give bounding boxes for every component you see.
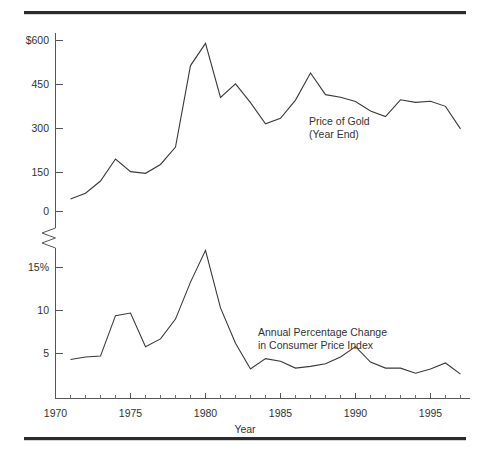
gold-ytick-label-0: 0 [43, 205, 49, 217]
gold-ytick-label-300: 300 [31, 122, 49, 134]
bottom-rule [24, 437, 466, 440]
xtick-label-1990: 1990 [344, 407, 368, 419]
gold-vs-cpi-figure: $600 450 300 150 0 Price of Gold (Year E… [0, 0, 488, 453]
xtick-label-1975: 1975 [119, 407, 143, 419]
gold-ytick-label-600: $600 [26, 34, 50, 46]
xtick-label-1985: 1985 [269, 407, 293, 419]
axis-break-zigzag [42, 228, 56, 252]
top-rule [24, 11, 466, 14]
gold-annotation-line2: (Year End) [309, 128, 359, 140]
chart-page: $600 450 300 150 0 Price of Gold (Year E… [0, 0, 488, 453]
axis-break [42, 228, 56, 252]
cpi-ytick-label-5: 5 [43, 347, 49, 359]
cpi-panel: 15% 10 5 1970 1975 1980 1985 1990 1995 A… [28, 250, 470, 435]
gold-panel: $600 450 300 150 0 Price of Gold (Year E… [26, 33, 461, 228]
cpi-ytick-label-10: 10 [37, 304, 49, 316]
gold-ytick-label-450: 450 [31, 78, 49, 90]
gold-ytick-label-150: 150 [31, 166, 49, 178]
gold-annotation-line1: Price of Gold [309, 115, 370, 127]
gold-price-series [71, 43, 461, 199]
xtick-label-1980: 1980 [194, 407, 218, 419]
cpi-change-series [71, 250, 461, 374]
xtick-label-1970: 1970 [44, 407, 68, 419]
x-axis-title: Year [234, 423, 256, 435]
cpi-ytick-label-15: 15% [28, 261, 49, 273]
cpi-annotation-line1: Annual Percentage Change [258, 326, 387, 338]
cpi-annotation-line2: in Consumer Price Index [258, 339, 374, 351]
x-tick-group [56, 393, 461, 399]
xtick-label-1995: 1995 [419, 407, 443, 419]
